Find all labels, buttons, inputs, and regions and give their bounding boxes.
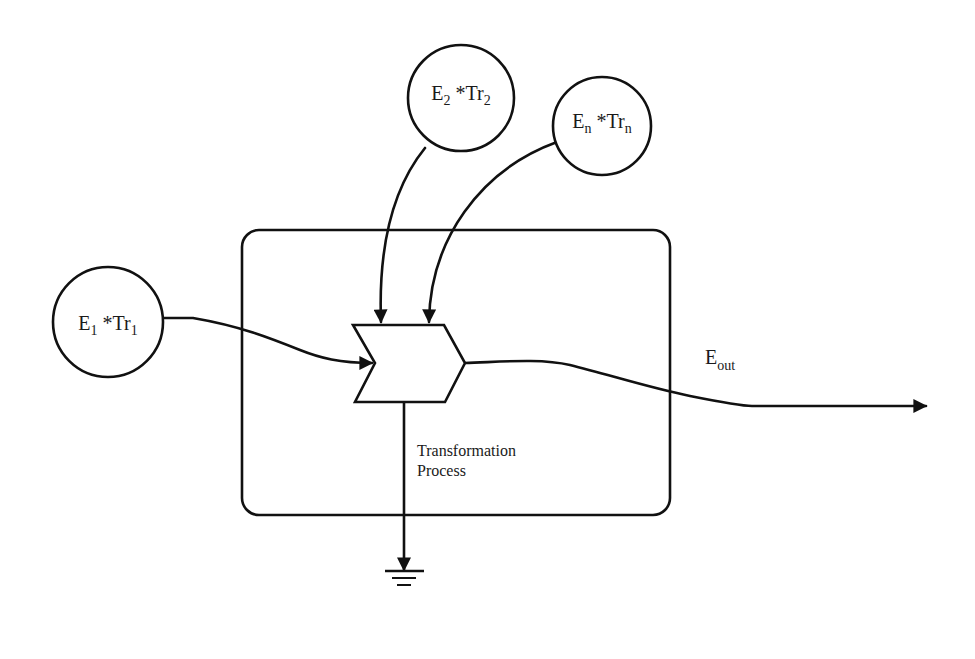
connector-e2-to-process (381, 148, 425, 322)
en-op: *Tr (592, 110, 626, 132)
input-node-e1: E1 *Tr1 (53, 267, 163, 377)
connector-en-to-process (429, 142, 557, 322)
e1-base: E (78, 312, 90, 334)
en-op-sub: n (625, 121, 632, 136)
process-label-line1: Transformation (417, 442, 516, 459)
e2-base: E (431, 82, 443, 104)
e2-op-sub: 2 (484, 93, 491, 108)
energy-transformation-diagram: E1 *Tr1 E2 *Tr2 En *Trn Transformation P… (0, 0, 975, 659)
input-node-e2: E2 *Tr2 (408, 45, 514, 151)
e2-op: *Tr (451, 82, 485, 104)
output-connector (465, 361, 926, 406)
ground-icon (385, 571, 424, 585)
connector-e1-to-process (163, 318, 372, 363)
e1-op-sub: 1 (131, 323, 138, 338)
en-base-sub: n (585, 121, 592, 136)
en-base: E (572, 110, 584, 132)
e1-base-sub: 1 (91, 323, 98, 338)
process-label-line2: Process (417, 462, 466, 479)
input-node-en: En *Trn (553, 77, 651, 175)
e1-op: *Tr (98, 312, 132, 334)
output-sub: out (717, 358, 735, 373)
output-base: E (705, 346, 717, 368)
output-label: Eout (705, 346, 735, 373)
e2-base-sub: 2 (444, 93, 451, 108)
